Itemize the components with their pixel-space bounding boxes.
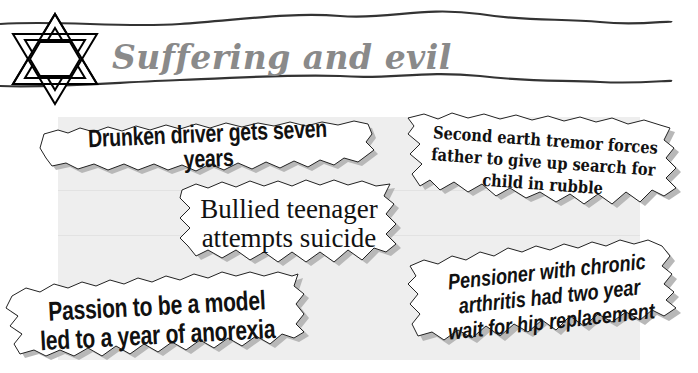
star-of-david-icon: [8, 8, 102, 108]
headline-text: attempts suicide: [202, 224, 377, 253]
headline-clipping-drunken-driver: Drunken driver gets seven years: [38, 120, 378, 172]
headline-clipping-earth-tremor: Second earth tremor forces father to giv…: [400, 110, 688, 210]
headline-text: Drunken driver gets seven years: [74, 115, 341, 177]
headline-clipping-bullied-teenager: Bullied teenager attempts suicide: [178, 178, 400, 266]
page-title: Suffering and evil: [112, 38, 452, 77]
headline-text: Bullied teenager: [200, 195, 378, 224]
headline-clipping-pensioner: Pensioner with chronic arthritis had two…: [404, 238, 694, 346]
headline-clipping-model-anorexia: Passion to be a model led to a year of a…: [2, 270, 312, 360]
